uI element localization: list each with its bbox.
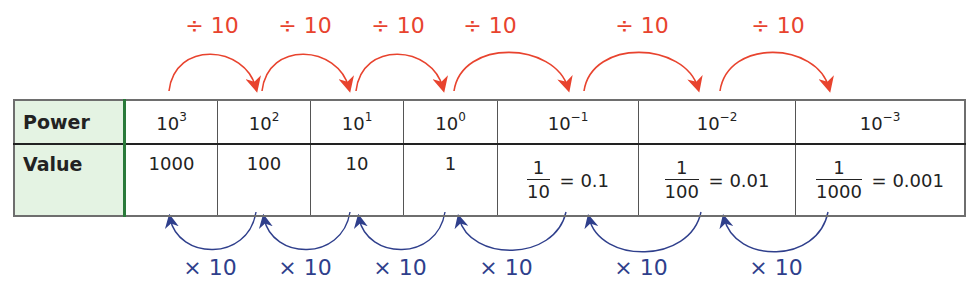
multiply-arrow-4 xyxy=(459,212,566,250)
divide-arrow-4 xyxy=(454,52,568,91)
multiply-label-1: × 10 xyxy=(183,255,236,280)
power-cell: 10−3 xyxy=(796,100,966,144)
divide-label-5: ÷ 10 xyxy=(615,13,668,38)
value-cell: 100 xyxy=(218,144,311,216)
divide-arrow-6 xyxy=(720,52,829,91)
multiply-arrow-2 xyxy=(264,212,350,250)
value-cell: 1100 = 0.01 xyxy=(639,144,796,216)
row-header-power: Power xyxy=(14,100,125,144)
value-cell: 1000 xyxy=(125,144,218,216)
value-cell: 110 = 0.1 xyxy=(498,144,639,216)
multiply-arrow-1 xyxy=(170,212,256,250)
multiply-label-3: × 10 xyxy=(373,255,426,280)
divide-arrow-1 xyxy=(169,54,256,91)
power-cell: 10−1 xyxy=(498,100,639,144)
value-cell: 1 xyxy=(404,144,498,216)
power-cell: 101 xyxy=(311,100,404,144)
multiply-arrow-5 xyxy=(589,212,701,252)
power-cell: 102 xyxy=(218,100,311,144)
value-cell: 10 xyxy=(311,144,404,216)
power-cell: 103 xyxy=(125,100,218,144)
value-row: Value 1000 100 10 1 110 = 0.1 1100 = 0.0… xyxy=(14,144,965,216)
multiply-label-4: × 10 xyxy=(479,255,532,280)
power-cell: 10−2 xyxy=(639,100,796,144)
divide-label-2: ÷ 10 xyxy=(278,13,331,38)
fraction: 11000 xyxy=(816,157,862,204)
value-cell: 11000 = 0.001 xyxy=(796,144,966,216)
multiply-arrow-3 xyxy=(359,212,445,250)
divide-arrow-3 xyxy=(356,54,443,91)
divide-label-6: ÷ 10 xyxy=(751,13,804,38)
multiply-label-2: × 10 xyxy=(278,255,331,280)
powers-of-ten-table: Power 103 102 101 100 10−1 10−2 10−3 Val… xyxy=(13,99,966,217)
multiply-arrow-6 xyxy=(724,212,828,252)
fraction: 1100 xyxy=(665,157,699,204)
divide-label-4: ÷ 10 xyxy=(463,13,516,38)
fraction: 110 xyxy=(527,157,550,204)
multiply-label-5: × 10 xyxy=(614,255,667,280)
divide-label-3: ÷ 10 xyxy=(371,13,424,38)
multiply-label-6: × 10 xyxy=(749,255,802,280)
power-row: Power 103 102 101 100 10−1 10−2 10−3 xyxy=(14,100,965,144)
divide-label-1: ÷ 10 xyxy=(185,13,238,38)
power-cell: 100 xyxy=(404,100,498,144)
divide-arrow-2 xyxy=(262,54,349,91)
row-header-value: Value xyxy=(14,144,125,216)
divide-arrow-5 xyxy=(584,52,698,91)
